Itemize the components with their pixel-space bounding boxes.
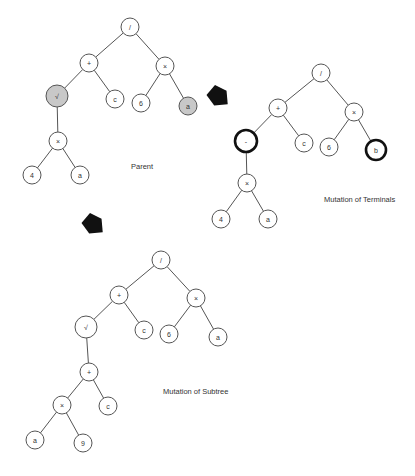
tree-edge: [126, 266, 154, 289]
node-label: a: [186, 103, 190, 110]
tree-node-subtree: ×: [53, 396, 71, 414]
tree-edge: [93, 380, 103, 398]
node-label: a: [33, 437, 37, 444]
tree-edge: [254, 114, 272, 133]
tree-node-parent: 4: [23, 166, 41, 184]
tree-node-terminals: ×: [238, 174, 256, 192]
tree-node-terminals: a: [259, 210, 277, 228]
tree-node-parent: 6: [132, 94, 150, 112]
node-label: +: [87, 60, 91, 67]
node-label: /: [129, 24, 131, 31]
tree-edge: [96, 33, 123, 57]
node-label: a: [266, 216, 270, 223]
tree-edge: [167, 267, 190, 292]
node-label: b: [374, 147, 378, 154]
node-label: ×: [56, 138, 60, 145]
tree-node-subtree: 6: [160, 325, 178, 343]
tree-edge: [40, 412, 56, 433]
node-label: ×: [194, 295, 198, 302]
tree-node-parent: ×: [156, 57, 174, 75]
node-label: 4: [219, 216, 223, 223]
node-label: 4: [30, 172, 34, 179]
caption-parent: Parent: [131, 162, 154, 171]
tree-edge: [283, 115, 298, 136]
node-label: ×: [60, 402, 64, 409]
tree-edge: [136, 34, 159, 60]
tree-node-terminals: b: [366, 140, 386, 160]
node-label: /: [320, 70, 322, 77]
tree-node-subtree: +: [110, 286, 128, 304]
tree-node-terminals: +: [269, 99, 287, 117]
tree-node-parent: a: [179, 97, 197, 115]
tree-edge: [66, 413, 78, 435]
tree-node-terminals: 4: [212, 210, 230, 228]
tree-node-parent: /: [121, 18, 139, 36]
mutation-diagram: /+×√c6a×4a/+×-c6b×4a/+×√c6a+×ca9 Parent …: [0, 0, 415, 476]
tree-node-terminals: /: [312, 64, 330, 82]
tree-edge: [246, 152, 247, 174]
tree-edge: [200, 306, 213, 329]
tree-edge: [94, 301, 113, 319]
captions-layer: Parent Mutation of Terminals Mutation of…: [131, 162, 395, 396]
tree-edge: [146, 74, 160, 96]
node-label: a: [78, 172, 82, 179]
tree-edge: [285, 79, 314, 103]
tree-node-parent: +: [80, 54, 98, 72]
tree-edge: [334, 119, 349, 139]
tree-node-subtree: √: [75, 316, 97, 338]
tree-edge: [87, 338, 89, 363]
tree-node-subtree: c: [135, 321, 153, 339]
tree-node-parent: √: [46, 85, 68, 107]
tree-node-terminals: 6: [320, 138, 338, 156]
node-label: 6: [327, 144, 331, 151]
tree-node-terminals: -: [235, 130, 257, 152]
tree-node-parent: a: [71, 166, 89, 184]
node-label: c: [302, 140, 306, 147]
arrow-icon: [205, 83, 234, 112]
node-label: +: [87, 369, 91, 376]
tree-edge: [65, 69, 83, 88]
tree-node-subtree: 9: [74, 434, 92, 452]
tree-edge: [94, 70, 109, 91]
tree-node-subtree: ×: [187, 289, 205, 307]
tree-edge: [226, 190, 241, 211]
tree-edge: [124, 302, 139, 322]
node-label: a: [216, 334, 220, 341]
node-label: /: [160, 257, 162, 264]
tree-node-subtree: c: [99, 397, 117, 415]
node-label: ×: [352, 109, 356, 116]
node-label: ×: [163, 63, 167, 70]
caption-mutation-of-terminals: Mutation of Terminals: [324, 195, 395, 204]
node-label: +: [276, 105, 280, 112]
tree-edge: [57, 107, 58, 132]
tree-node-subtree: a: [26, 431, 44, 449]
arrows-layer: [80, 83, 234, 240]
tree-node-subtree: a: [209, 328, 227, 346]
tree-edge: [174, 305, 190, 327]
tree-node-subtree: +: [80, 363, 98, 381]
tree-node-terminals: ×: [345, 103, 363, 121]
arrow-icon: [80, 211, 109, 240]
tree-edge: [169, 74, 183, 98]
node-label: √: [84, 324, 88, 331]
tree-node-parent: ×: [49, 132, 67, 150]
node-label: 6: [167, 331, 171, 338]
node-label: c: [142, 327, 146, 334]
node-label: c: [113, 96, 117, 103]
tree-node-parent: c: [106, 90, 124, 108]
node-label: ×: [245, 180, 249, 187]
tree-edge: [359, 120, 371, 142]
node-label: +: [117, 292, 121, 299]
node-label: 6: [139, 100, 143, 107]
tree-node-subtree: /: [152, 251, 170, 269]
tree-edge: [327, 80, 348, 105]
tree-node-terminals: c: [295, 134, 313, 152]
tree-edge: [68, 379, 84, 398]
caption-mutation-of-subtree: Mutation of Subtree: [163, 387, 228, 396]
tree-edge: [252, 191, 264, 211]
node-label: 9: [81, 440, 85, 447]
tree-edge: [37, 148, 52, 168]
node-label: √: [55, 93, 59, 100]
tree-edge: [63, 149, 75, 168]
node-label: c: [106, 403, 110, 410]
